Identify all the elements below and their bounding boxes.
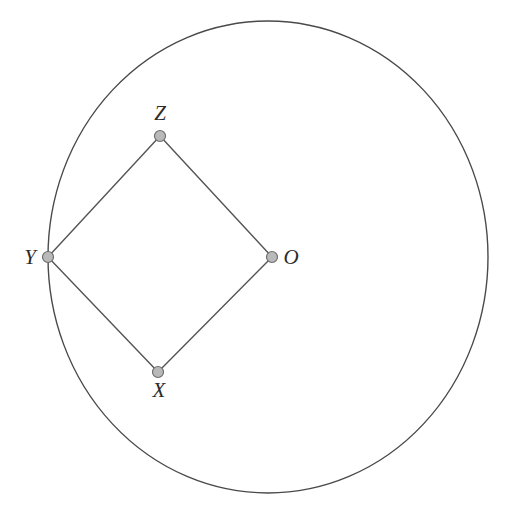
edge-O-X — [158, 257, 272, 372]
vertex-label-x: X — [152, 378, 167, 402]
vertex-labels: ZYOX — [24, 101, 298, 402]
edge-Y-Z — [48, 136, 160, 257]
edge-X-Y — [48, 257, 158, 372]
vertex-point-z — [155, 131, 166, 142]
vertex-label-y: Y — [24, 245, 38, 269]
rhombus-edges — [48, 136, 272, 372]
vertex-point-y — [43, 252, 54, 263]
vertex-point-o — [267, 252, 278, 263]
vertex-point-x — [153, 367, 164, 378]
figure-canvas: ZYOX — [0, 0, 506, 508]
geometry-figure: ZYOX — [0, 0, 506, 508]
vertex-label-z: Z — [154, 101, 166, 125]
edge-Z-O — [160, 136, 272, 257]
vertex-nodes — [43, 131, 278, 378]
vertex-label-o: O — [283, 245, 298, 269]
